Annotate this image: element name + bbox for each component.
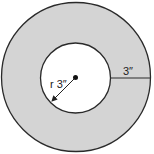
ring-width-label: 3″ <box>123 65 133 77</box>
center-dot <box>73 75 78 80</box>
radius-label: r 3″ <box>50 78 67 90</box>
annulus-diagram: r 3″ 3″ <box>0 0 154 154</box>
